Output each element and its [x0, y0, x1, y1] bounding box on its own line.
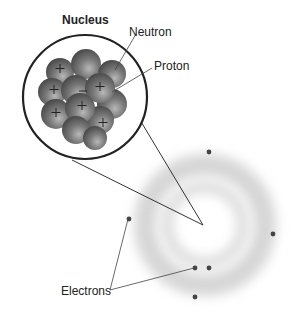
- proton-label: Proton: [154, 59, 189, 73]
- atom-diagram: [0, 0, 296, 320]
- neutron-label: Neutron: [129, 25, 172, 39]
- nucleus-label: Nucleus: [62, 13, 109, 27]
- electron-cloud: [145, 165, 265, 285]
- electrons-label: Electrons: [61, 284, 111, 298]
